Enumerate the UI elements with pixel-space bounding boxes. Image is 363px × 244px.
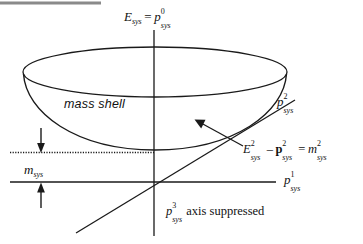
p2-axis-label: p2sys (277, 95, 297, 108)
top-gray-bar (0, 2, 101, 5)
invariant-equation-label: E2sys– p2sys= m2sys (243, 143, 333, 156)
mass-bracket-label: msys (24, 163, 43, 176)
energy-axis-label-text: Esys = p0sys (124, 9, 174, 24)
mass-bracket-down-arrow (37, 128, 45, 153)
physics-diagram-mass-shell: Esys = p0sys mass shell p2sys E2sys– p2s… (0, 0, 363, 244)
suppressed-axis-note-text: axis suppressed (186, 204, 264, 218)
mass-shell-label: mass shell (64, 98, 125, 111)
mass-bracket-up-arrow (37, 183, 45, 209)
bowl-profile-curve (24, 74, 287, 150)
bowl-rim-ellipse (23, 47, 287, 97)
suppressed-axis-note: p3sysaxis suppressed (166, 205, 264, 218)
energy-axis-label: Esys = p0sys (124, 10, 174, 23)
p1-axis-label: p1sys (284, 173, 304, 186)
equation-leader-arrow (195, 119, 244, 146)
